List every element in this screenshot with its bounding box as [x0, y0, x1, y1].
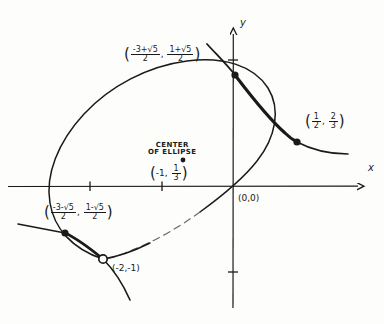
paren-open: ( [44, 203, 50, 221]
point-ellipse-center [181, 158, 186, 163]
fraction-y: 13 [172, 165, 181, 182]
label-separator: , [161, 49, 167, 59]
curve-ellipse [49, 60, 275, 259]
label-separator: , [77, 207, 83, 217]
fraction-x: -3+√52 [131, 46, 160, 63]
label-center-coordinates: (-1, 13) [150, 165, 188, 182]
paren-close: ) [339, 112, 345, 130]
figure-canvas: (-3+√52, 1+√52) (12, 23) (-3-√52, 1-√52)… [0, 0, 384, 324]
fraction-y-denominator: 3 [172, 174, 181, 182]
point-intersection-lower-left [61, 229, 68, 236]
center-x-value: -1 [156, 168, 165, 178]
fraction-x-denominator: 2 [131, 55, 160, 63]
label-origin: (0,0) [238, 194, 259, 203]
paren-close: ) [107, 203, 113, 221]
label-intersection-upper-left: (-3+√52, 1+√52) [124, 46, 200, 63]
fraction-x: 12 [312, 113, 321, 130]
point-intersection-right [293, 138, 300, 145]
label-separator: , [165, 168, 171, 178]
paren-close: ) [182, 164, 188, 182]
label-removable-hole: (-2,-1) [112, 264, 140, 273]
label-center-of-ellipse: CENTER OF ELLIPSE [148, 142, 196, 157]
fraction-y: 1-√52 [84, 204, 106, 221]
fraction-y: 23 [329, 113, 338, 130]
axis-x [8, 182, 358, 192]
label-axis-x: x [368, 163, 374, 174]
point-removable-hole [99, 255, 107, 263]
center-title-line2: OF ELLIPSE [148, 149, 196, 156]
fraction-x-denominator: 2 [312, 122, 321, 130]
fraction-y-denominator: 2 [167, 55, 193, 63]
fraction-x: -3-√52 [51, 204, 76, 221]
ellipse-dashed-arc [103, 212, 200, 259]
label-intersection-right: (12, 23) [305, 113, 345, 130]
hyperbola-thick-span-lower [65, 233, 103, 259]
fraction-y-denominator: 3 [329, 122, 338, 130]
curve-hyperbola-lower [18, 224, 150, 300]
label-axis-y: y [240, 18, 246, 29]
paren-open: ( [305, 112, 311, 130]
label-intersection-lower-left: (-3-√52, 1-√52) [44, 204, 113, 221]
fraction-y: 1+√52 [167, 46, 193, 63]
paren-close: ) [194, 45, 200, 63]
fraction-y-denominator: 2 [84, 213, 106, 221]
point-intersection-upper-left [231, 71, 238, 78]
paren-open: ( [124, 45, 130, 63]
fraction-x-denominator: 2 [51, 213, 76, 221]
label-separator: , [322, 116, 328, 126]
